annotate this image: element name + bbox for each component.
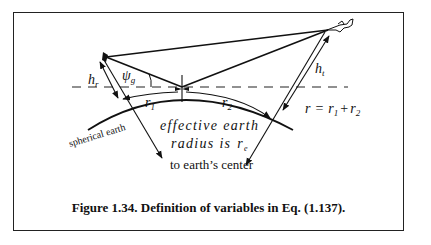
label-to-earth-center: to earth’s center [170,157,254,172]
label-r1: r1 [145,95,155,112]
label-h-r: hr [88,72,99,89]
radar-antenna-icon [102,52,108,62]
target-radius-arrow [246,32,325,165]
label-effective-line1: effective earth [160,118,259,133]
figure: hr ψg r1 r2 ht r=r1+r2 spherical earth e… [0,0,431,245]
equation-r-sum: r=r1+r2 [305,101,361,118]
r1-arc-arrow [123,92,178,99]
label-h-t: ht [315,61,325,78]
label-effective-line2: radius isre [171,136,249,153]
label-r2: r2 [222,95,232,112]
aircraft-icon [327,19,353,32]
label-psi-g: ψg [122,68,136,85]
figure-caption: Figure 1.34. Definition of variables in … [13,200,404,216]
grazing-angle-arc [149,74,151,87]
